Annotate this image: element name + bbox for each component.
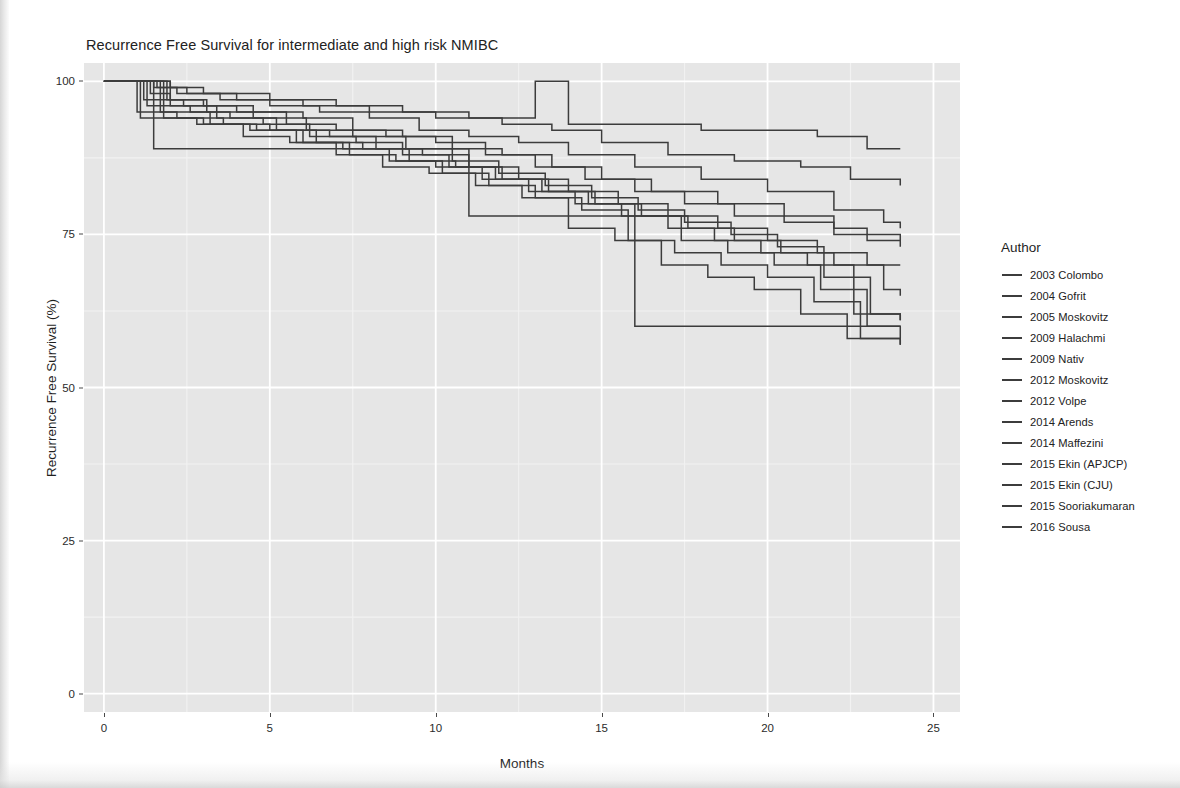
- y-tick-label: 75: [62, 228, 75, 240]
- x-tick-label: 0: [101, 722, 107, 734]
- x-tick-label: 10: [429, 722, 442, 734]
- survival-curve: [104, 81, 900, 148]
- y-tick-mark: [79, 81, 83, 82]
- chart-figure: Recurrence Free Survival for intermediat…: [0, 0, 1180, 788]
- y-tick-mark: [79, 540, 83, 541]
- x-tick-label: 20: [761, 722, 774, 734]
- legend-line-icon: [1001, 329, 1023, 347]
- legend-item-label: 2012 Moskovitz: [1030, 374, 1108, 386]
- legend-item-label: 2016 Sousa: [1030, 521, 1090, 533]
- x-tick-label: 15: [595, 722, 608, 734]
- legend-items: 2003 Colombo2004 Gofrit2005 Moskovitz200…: [1001, 264, 1177, 537]
- legend-item[interactable]: 2014 Maffezini: [1001, 432, 1177, 453]
- legend-item[interactable]: 2015 Ekin (CJU): [1001, 474, 1177, 495]
- legend-line-icon: [1001, 413, 1023, 431]
- x-tick-mark: [104, 713, 105, 717]
- legend-item-label: 2015 Ekin (CJU): [1030, 479, 1113, 491]
- x-tick-label: 5: [267, 722, 273, 734]
- legend-item[interactable]: 2012 Volpe: [1001, 390, 1177, 411]
- legend-item-label: 2004 Gofrit: [1030, 290, 1086, 302]
- legend-item-label: 2014 Arends: [1030, 416, 1093, 428]
- legend-item[interactable]: 2015 Sooriakumaran: [1001, 495, 1177, 516]
- y-tick-mark: [79, 387, 83, 388]
- legend-item-label: 2005 Moskovitz: [1030, 311, 1108, 323]
- legend-line-icon: [1001, 476, 1023, 494]
- legend-item[interactable]: 2003 Colombo: [1001, 264, 1177, 285]
- x-tick-mark: [436, 713, 437, 717]
- survival-curve: [104, 81, 900, 295]
- x-tick-mark: [768, 713, 769, 717]
- legend-item[interactable]: 2016 Sousa: [1001, 516, 1177, 537]
- legend-line-icon: [1001, 371, 1023, 389]
- y-tick-mark: [79, 693, 83, 694]
- legend-item[interactable]: 2005 Moskovitz: [1001, 306, 1177, 327]
- survival-curve: [104, 81, 900, 246]
- legend: Author 2003 Colombo2004 Gofrit2005 Mosko…: [1001, 240, 1177, 537]
- y-tick-label: 100: [56, 75, 75, 87]
- grid-major: [84, 63, 960, 712]
- curve-group: [104, 81, 900, 344]
- legend-item-label: 2009 Nativ: [1030, 353, 1084, 365]
- legend-item[interactable]: 2015 Ekin (APJCP): [1001, 453, 1177, 474]
- legend-item-label: 2003 Colombo: [1030, 269, 1103, 281]
- legend-line-icon: [1001, 287, 1023, 305]
- legend-line-icon: [1001, 455, 1023, 473]
- legend-line-icon: [1001, 518, 1023, 536]
- legend-line-icon: [1001, 266, 1023, 284]
- legend-item[interactable]: 2014 Arends: [1001, 411, 1177, 432]
- legend-item[interactable]: 2009 Halachmi: [1001, 327, 1177, 348]
- legend-item-label: 2009 Halachmi: [1030, 332, 1105, 344]
- legend-item-label: 2012 Volpe: [1030, 395, 1087, 407]
- legend-item-label: 2015 Sooriakumaran: [1030, 500, 1135, 512]
- legend-line-icon: [1001, 350, 1023, 368]
- survival-curve: [104, 81, 900, 320]
- survival-curves-svg: [84, 63, 960, 712]
- legend-title: Author: [1001, 240, 1177, 255]
- y-tick-label: 50: [62, 382, 75, 394]
- page-title: Recurrence Free Survival for intermediat…: [86, 37, 498, 53]
- plot-panel: [84, 63, 960, 712]
- legend-line-icon: [1001, 392, 1023, 410]
- legend-line-icon: [1001, 497, 1023, 515]
- survival-curve: [104, 81, 900, 320]
- legend-item[interactable]: 2004 Gofrit: [1001, 285, 1177, 306]
- scan-bottom-artifact: [0, 762, 1180, 788]
- legend-item[interactable]: 2012 Moskovitz: [1001, 369, 1177, 390]
- legend-line-icon: [1001, 434, 1023, 452]
- legend-item-label: 2015 Ekin (APJCP): [1030, 458, 1127, 470]
- y-tick-label: 25: [62, 535, 75, 547]
- x-tick-label: 25: [927, 722, 940, 734]
- legend-item-label: 2014 Maffezini: [1030, 437, 1103, 449]
- y-tick-label: 0: [69, 688, 75, 700]
- y-tick-mark: [79, 234, 83, 235]
- legend-item[interactable]: 2009 Nativ: [1001, 348, 1177, 369]
- x-tick-mark: [270, 713, 271, 717]
- x-tick-mark: [602, 713, 603, 717]
- x-tick-mark: [933, 713, 934, 717]
- legend-line-icon: [1001, 308, 1023, 326]
- y-axis-title: Recurrence Free Survival (%): [44, 238, 59, 538]
